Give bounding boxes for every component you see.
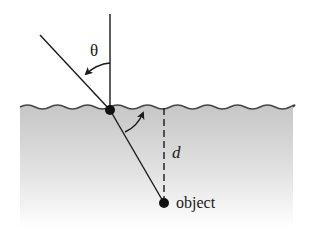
refraction-diagram: θ d object xyxy=(0,0,310,231)
theta-arc-arrow-icon xyxy=(86,63,110,74)
object-label: object xyxy=(176,194,216,212)
surface-point-dot-icon xyxy=(105,105,115,115)
depth-label: d xyxy=(172,143,181,162)
ray-in-air xyxy=(40,35,110,110)
object-dot-icon xyxy=(159,198,169,208)
theta-label: θ xyxy=(90,41,98,60)
water-region xyxy=(20,105,295,228)
